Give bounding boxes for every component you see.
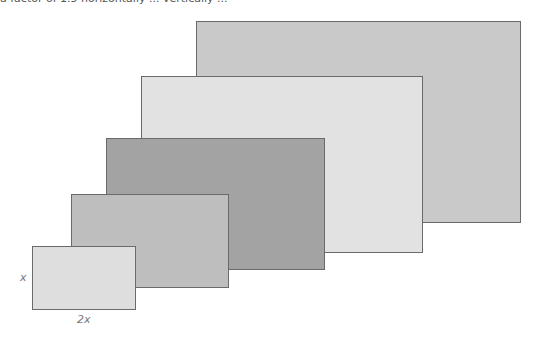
caption-fragment: a factor of 1.5 horizontally ... vertica… [0,0,535,6]
rect-1 [32,246,136,310]
width-label: 2x [77,313,91,326]
height-label: x [20,271,27,284]
